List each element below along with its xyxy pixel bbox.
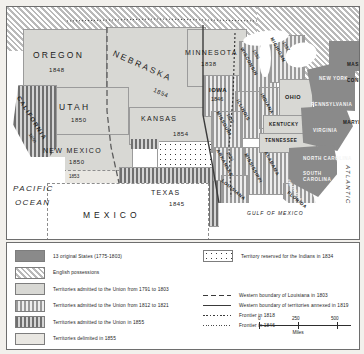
label-utah: UTAH [59, 103, 90, 112]
label-minnesota-year: 1838 [201, 61, 217, 67]
legend-left-column: 13 original States (1775-1803) English p… [15, 249, 195, 348]
label-connecticut: CONN. [347, 79, 360, 84]
legend-label: Territories delimited in 1855 [53, 336, 116, 341]
label-texas: TEXAS [151, 189, 180, 196]
legend-label: Western boundary of territories annexed … [239, 303, 349, 308]
label-atlantic-ocean: ATLANTIC [345, 165, 351, 205]
label-kansas-year: 1854 [173, 131, 189, 137]
label-utah-year: 1850 [71, 117, 87, 123]
map-canvas: OREGON 1848 NEBRASKA 1854 MINNESOTA 1838… [7, 7, 359, 239]
legend-item: 13 original States (1775-1803) [15, 249, 195, 263]
legend-line-item: Western boundary of territories annexed … [203, 302, 353, 310]
legend-label: Territory reserved for the Indians in 18… [241, 254, 333, 259]
label-ohio: OHIO [285, 95, 301, 101]
label-gadsden-year: 1853 [69, 175, 79, 180]
legend-swatch-indian-territory [203, 250, 233, 262]
scale-bar: 0 250 500 Miles [259, 315, 351, 335]
legend-line-louisiana-boundary [203, 293, 231, 299]
legend-swatch-delimited-1855 [15, 333, 45, 345]
label-iowa-year: 1846 [211, 97, 223, 103]
label-minnesota: MINNESOTA [185, 49, 238, 56]
map-figure: OREGON 1848 NEBRASKA 1854 MINNESOTA 1838… [0, 0, 364, 354]
legend-label: 13 original States (1775-1803) [53, 254, 122, 259]
legend-label: Territories admitted to the Union from 1… [53, 287, 169, 292]
label-pennsylvania: PENNSYLVANIA [311, 103, 352, 108]
legend-label: English possessions [53, 270, 99, 275]
label-pacific-ocean: PACIFIC [13, 185, 54, 193]
scale-tick-500: 500 [331, 316, 339, 321]
legend-swatch-1855 [15, 316, 45, 328]
legend-swatch-english-possessions [15, 267, 45, 279]
legend-line-annexed-boundary [203, 303, 231, 309]
label-pacific-ocean-2: OCEAN [15, 199, 50, 207]
legend-label: Territories admitted to the Union in 185… [53, 320, 144, 325]
legend-label: Territories admitted to the Union from 1… [53, 303, 169, 308]
label-new-mexico: NEW MEXICO [43, 147, 102, 154]
label-new-mexico-year: 1850 [69, 159, 85, 165]
label-virginia: VIRGINIA [313, 129, 337, 134]
legend-swatch-1812-1821 [15, 300, 45, 312]
label-maryland: MARYLAND [343, 121, 360, 126]
scale-tick-0: 0 [258, 316, 261, 321]
legend-item: Territories admitted to the Union from 1… [15, 299, 195, 313]
legend-item: Territories admitted to the Union from 1… [15, 282, 195, 296]
scale-caption: Miles [259, 330, 337, 335]
label-iowa: IOWA [209, 87, 227, 93]
scale-bar-line: 0 250 500 [259, 322, 351, 329]
label-oregon-year: 1848 [49, 67, 65, 73]
label-kansas: KANSAS [141, 115, 177, 122]
map-panel: OREGON 1848 NEBRASKA 1854 MINNESOTA 1838… [6, 6, 360, 240]
label-south-carolina: SOUTH CAROLINA [303, 171, 327, 182]
label-massachusetts: MASS. [347, 63, 360, 68]
legend-item: Territories admitted to the Union in 185… [15, 315, 195, 329]
legend-item: Territories delimited in 1855 [15, 332, 195, 346]
label-kentucky: KENTUCKY [269, 123, 299, 128]
legend-item: Territory reserved for the Indians in 18… [203, 249, 353, 263]
legend-line-frontier-1818 [203, 313, 231, 319]
legend-swatch-1791-1803 [15, 283, 45, 295]
label-texas-year: 1845 [169, 201, 185, 207]
scale-tick-250: 250 [292, 316, 300, 321]
label-new-york: NEW YORK [319, 77, 348, 82]
legend-swatch-original-states [15, 250, 45, 262]
label-oregon: OREGON [33, 51, 84, 60]
legend-panel: 13 original States (1775-1803) English p… [6, 242, 360, 350]
label-mexico: MEXICO [83, 211, 141, 220]
legend-label: Western boundary of Louisiana in 1803 [239, 293, 328, 298]
legend-item: English possessions [15, 266, 195, 280]
label-tennessee: TENNESSEE [265, 139, 297, 144]
legend-line-item: Western boundary of Louisiana in 1803 [203, 292, 353, 300]
label-gulf-of-mexico: GULF OF MEXICO [247, 211, 304, 216]
legend-line-frontier-1846 [203, 323, 231, 329]
label-north-carolina: NORTH CAROLINA [303, 157, 352, 162]
